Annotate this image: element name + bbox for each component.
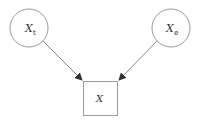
edge-x-e-to-x: [119, 41, 157, 80]
node-x-e-subscript: e: [174, 29, 178, 37]
node-x-t: X t: [10, 9, 48, 47]
diagram-canvas: X t X e X: [0, 0, 199, 121]
node-x-t-subscript: t: [33, 29, 36, 37]
edge-x-t-to-x: [43, 41, 82, 80]
node-x: X: [84, 82, 118, 116]
node-x-label: X: [95, 93, 104, 104]
node-x-e: X e: [152, 9, 190, 47]
